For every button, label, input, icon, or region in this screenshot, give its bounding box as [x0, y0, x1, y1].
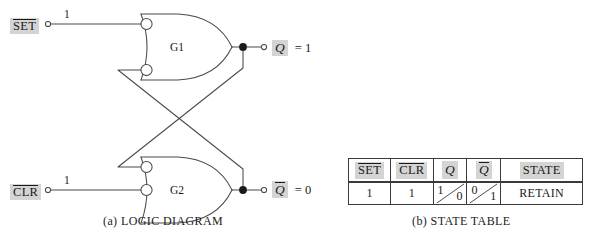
state-table: SET CLR Q Q STATE 1 1 1 0 — [348, 158, 583, 205]
figure-root: G1 G2 SET 1 CLR 1 Q = 1 Q = 0 (a) LOGIC … — [0, 0, 602, 240]
qnot-label-text: Q — [275, 182, 285, 197]
header-set-text: SET — [358, 163, 381, 177]
cell-qnot-top: 0 — [471, 183, 477, 198]
q-junction-dot — [239, 43, 247, 51]
clr-wire-value: 1 — [64, 175, 70, 187]
feedback-qnot-to-g1 — [118, 70, 243, 186]
qnot-output-terminal — [261, 187, 266, 192]
g1-bottom-edge — [141, 47, 232, 80]
set-label-text: SET — [13, 19, 36, 33]
set-input-label: SET — [10, 17, 39, 34]
clr-input-terminal — [45, 187, 50, 192]
g2-gate-label: G2 — [170, 184, 184, 196]
table-row: 1 1 1 0 0 1 RETAIN — [349, 182, 583, 205]
qnot-junction-dot — [239, 186, 247, 194]
state-table-header-row: SET CLR Q Q STATE — [349, 159, 583, 183]
qnot-output-label: Q = 0 — [272, 181, 311, 198]
set-input-terminal — [45, 21, 50, 26]
header-state-text: STATE — [520, 162, 564, 179]
header-cell-qnot: Q — [467, 159, 501, 183]
q-output-label: Q = 1 — [272, 39, 311, 56]
g2-top-edge — [141, 157, 232, 190]
g2-input-bubble-bottom — [141, 184, 152, 195]
feedback-q-to-g2 — [118, 51, 243, 167]
g1-input-bubble-bottom — [141, 64, 152, 75]
cell-q-bottom: 0 — [456, 189, 462, 204]
state-table-caption: (b) STATE TABLE — [412, 214, 511, 229]
cell-state-text: RETAIN — [519, 186, 564, 200]
q-label-text: Q — [275, 40, 285, 55]
cell-q-top: 1 — [438, 183, 444, 198]
qnot-output-value: = 0 — [295, 183, 311, 197]
clr-input-label: CLR — [10, 183, 41, 200]
q-output-value: = 1 — [295, 41, 311, 55]
q-output-terminal — [261, 44, 266, 49]
cell-qnot-value: 0 1 — [467, 182, 501, 205]
header-clr-text: CLR — [399, 163, 424, 177]
cell-q-value: 1 0 — [433, 182, 467, 205]
set-wire-value: 1 — [64, 9, 70, 21]
cell-state-value: RETAIN — [501, 182, 583, 205]
header-cell-state: STATE — [501, 159, 583, 183]
cell-set-value: 1 — [349, 182, 391, 205]
header-cell-q: Q — [433, 159, 467, 183]
g1-input-bubble-top — [141, 18, 152, 29]
header-cell-clr: CLR — [391, 159, 433, 183]
header-qnot-text: Q — [479, 162, 489, 177]
logic-diagram-caption: (a) LOGIC DIAGRAM — [103, 214, 223, 229]
header-cell-set: SET — [349, 159, 391, 183]
cell-qnot-bottom: 1 — [490, 189, 496, 204]
g2-input-bubble-top — [141, 161, 152, 172]
g1-gate-label: G1 — [170, 41, 184, 53]
g1-top-edge — [141, 14, 232, 47]
clr-label-text: CLR — [13, 185, 38, 199]
header-q-text: Q — [445, 162, 455, 177]
cell-clr-value: 1 — [391, 182, 433, 205]
